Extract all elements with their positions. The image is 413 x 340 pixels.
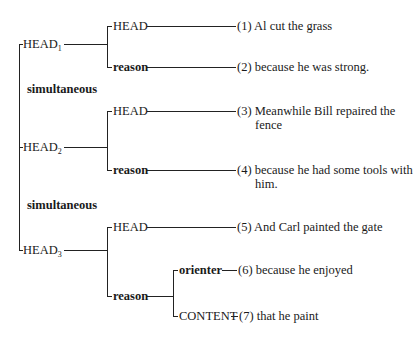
leaf-7: (7) that he paint [239, 309, 319, 323]
branch-line [107, 111, 108, 171]
branch-line [107, 26, 108, 68]
connector [107, 111, 112, 112]
connector [147, 26, 236, 27]
orienter-label: orienter [179, 263, 222, 277]
connector [173, 316, 178, 317]
connector [147, 227, 236, 228]
head-2-branch-reason: reason [113, 163, 148, 177]
connector [64, 250, 107, 251]
relation-simultaneous-2: simultaneous [27, 198, 97, 212]
connector [107, 26, 112, 27]
connector [147, 67, 236, 68]
head-3-branch-reason: reason [113, 289, 148, 303]
connector [64, 44, 107, 45]
connector [231, 316, 238, 317]
leaf-5: (5) And Carl painted the gate [237, 220, 382, 234]
head-3-label: HEAD3 [23, 243, 62, 262]
head-1-branch-reason: reason [113, 60, 148, 74]
leaf-3: (3) Meanwhile Bill repaired thefence [237, 104, 395, 132]
sub-branch-line [173, 270, 174, 317]
connector [222, 270, 237, 271]
head-2-label: HEAD2 [23, 140, 62, 159]
connector [147, 170, 236, 171]
leaf-1: (1) Al cut the grass [237, 19, 332, 33]
relation-simultaneous-1: simultaneous [27, 82, 97, 96]
connector [107, 170, 112, 171]
branch-line [107, 227, 108, 297]
head-3-branch-head: HEAD [113, 220, 148, 234]
content-label: CONTENT [179, 309, 237, 323]
connector [64, 147, 107, 148]
leaf-4: (4) because he had some tools withhim. [237, 163, 413, 191]
connector [107, 227, 112, 228]
connector [107, 67, 112, 68]
connector [147, 111, 236, 112]
connector [147, 296, 173, 297]
head-2-branch-head: HEAD [113, 104, 148, 118]
head-1-label: HEAD1 [23, 37, 62, 56]
connector [173, 270, 178, 271]
head-1-branch-head: HEAD [113, 19, 148, 33]
leaf-6: (6) because he enjoyed [238, 263, 353, 277]
leaf-2: (2) because he was strong. [237, 60, 369, 74]
connector [107, 296, 112, 297]
